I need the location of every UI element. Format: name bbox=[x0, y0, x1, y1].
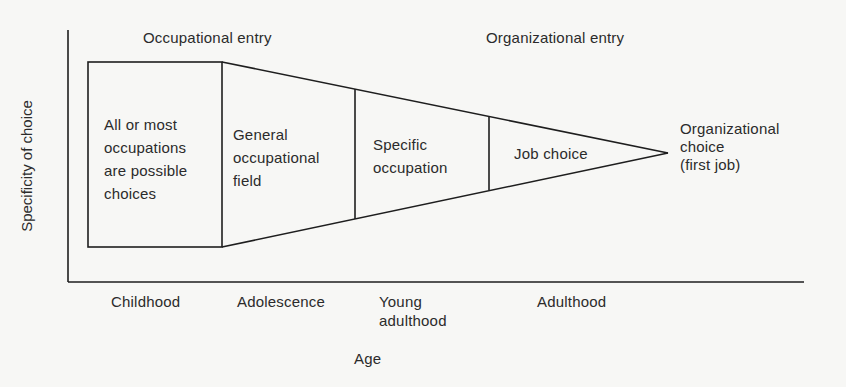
x-axis-label: Age bbox=[354, 349, 381, 368]
age-period-adulthood: Adulthood bbox=[537, 292, 606, 311]
age-period-young-adulthood: Young adulthood bbox=[379, 292, 447, 330]
career-choice-funnel-diagram: Specificity of choice Occupational entry… bbox=[0, 0, 846, 387]
stage-all-occupations-text: All or most occupations are possible cho… bbox=[104, 113, 187, 205]
stage-general-field-text: General occupational field bbox=[233, 123, 320, 192]
y-axis-label: Specificity of choice bbox=[18, 100, 35, 232]
age-period-adolescence: Adolescence bbox=[237, 292, 325, 311]
stage-specific-occupation-text: Specific occupation bbox=[373, 133, 448, 179]
age-period-childhood: Childhood bbox=[111, 292, 180, 311]
stage-job-choice-text: Job choice bbox=[514, 144, 588, 163]
organizational-entry-label: Organizational entry bbox=[486, 28, 624, 47]
occupational-entry-label: Occupational entry bbox=[143, 28, 272, 47]
organizational-choice-label: Organizational choice (first job) bbox=[680, 120, 780, 174]
